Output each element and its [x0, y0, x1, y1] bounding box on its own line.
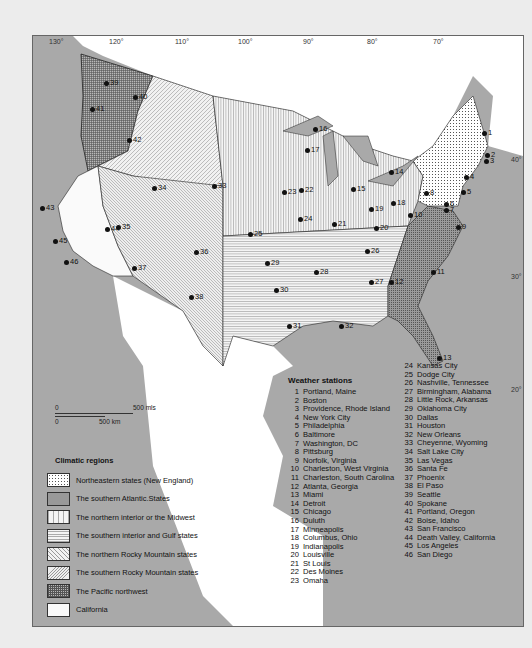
station-list-item: 38El Paso: [399, 482, 495, 491]
station-dot-icon: [482, 131, 487, 136]
station-marker: 1: [481, 129, 492, 137]
station-marker-number: 32: [345, 321, 353, 330]
legend-item-southern-atlantic: The southern Atlantic.States: [47, 490, 198, 509]
station-dot-icon: [298, 217, 303, 222]
station-dot-icon: [461, 190, 466, 195]
station-dot-icon: [133, 95, 138, 100]
station-marker-number: 21: [338, 219, 346, 228]
station-marker-number: 31: [293, 321, 301, 330]
station-dot-icon: [431, 270, 436, 275]
station-marker-number: 27: [375, 277, 383, 286]
station-marker: 23: [281, 188, 296, 196]
station-marker-number: 20: [380, 223, 388, 232]
station-marker: 38: [188, 293, 203, 301]
station-marker: 43: [39, 204, 54, 212]
map-frame: 130° 120° 110° 100° 90° 80° 70° 40° 30° …: [32, 35, 524, 627]
station-dot-icon: [305, 148, 310, 153]
station-marker-number: 4: [470, 172, 474, 181]
station-name: Omaha: [303, 576, 328, 585]
station-marker-number: 3: [490, 156, 494, 165]
station-marker: 11: [430, 268, 445, 276]
legend-swatch: [47, 603, 70, 617]
station-dot-icon: [248, 232, 253, 237]
station-list-item: 23Omaha: [285, 577, 394, 586]
latitude-label-30: 30°: [511, 273, 522, 280]
longitude-label-70: 70°: [433, 38, 444, 45]
longitude-label-90: 90°: [303, 38, 314, 45]
station-marker: 29: [264, 259, 279, 267]
station-marker-number: 9: [462, 222, 466, 231]
station-list-item: 14Detroit: [285, 500, 394, 509]
legend-item-northern-rockies: The northern Rocky Mountain states: [47, 545, 198, 564]
station-dot-icon: [464, 175, 469, 180]
station-list-item: 36Santa Fe: [399, 465, 495, 474]
station-marker: 16: [312, 125, 327, 133]
legend-swatch: [47, 510, 70, 524]
station-marker-number: 10: [414, 210, 422, 219]
legend-title: Climatic regions: [55, 456, 198, 465]
station-dot-icon: [389, 170, 394, 175]
station-marker: 33: [211, 182, 226, 190]
station-marker: 36: [193, 248, 208, 256]
longitude-label-130: 130°: [49, 38, 63, 45]
station-dot-icon: [282, 190, 287, 195]
station-marker: 8: [423, 189, 434, 197]
station-marker-number: 8: [430, 188, 434, 197]
station-marker-number: 26: [371, 246, 379, 255]
station-marker: 9: [455, 223, 466, 231]
station-dot-icon: [391, 201, 396, 206]
station-list-item: 19Indianapolis: [285, 543, 394, 552]
station-marker-number: 14: [395, 167, 403, 176]
station-marker: 19: [368, 205, 383, 213]
station-number: 46: [399, 551, 413, 560]
station-list-item: 15Chicago: [285, 508, 394, 517]
station-dot-icon: [194, 250, 199, 255]
station-marker: 4: [463, 173, 474, 181]
station-dot-icon: [339, 324, 344, 329]
station-list-item: 13Miami: [285, 491, 394, 500]
station-marker-number: 37: [138, 263, 146, 272]
longitude-label-100: 100°: [238, 38, 252, 45]
legend-swatch: [47, 547, 70, 561]
station-list-item: 46San Diego: [399, 551, 495, 560]
station-marker: 3: [483, 157, 494, 165]
legend-item-midwest: The northern interior or the Midwest: [47, 508, 198, 527]
station-marker: 27: [368, 278, 383, 286]
station-marker: 44: [104, 225, 119, 233]
station-marker-number: 18: [397, 198, 405, 207]
station-number: 23: [285, 577, 299, 586]
station-marker-number: 12: [395, 277, 403, 286]
station-dot-icon: [189, 295, 194, 300]
station-marker: 30: [273, 286, 288, 294]
station-dot-icon: [127, 138, 132, 143]
weather-stations-heading: Weather stations: [288, 376, 352, 385]
station-marker-number: 7: [450, 205, 454, 214]
station-dot-icon: [369, 207, 374, 212]
station-list-item: 29Oklahoma City: [399, 405, 495, 414]
station-list-item: 22Des Moines: [285, 568, 394, 577]
legend-item-southern-rockies: The southern Rocky Mountain states: [47, 564, 198, 583]
station-dot-icon: [408, 213, 413, 218]
station-marker: 15: [350, 185, 365, 193]
station-marker: 31: [286, 322, 301, 330]
station-dot-icon: [437, 356, 442, 361]
station-marker-number: 38: [195, 292, 203, 301]
station-list-item: 1Portland, Maine: [285, 388, 394, 397]
station-marker: 7: [443, 206, 454, 214]
station-dot-icon: [64, 260, 69, 265]
station-marker-number: 34: [158, 183, 166, 192]
station-dot-icon: [456, 225, 461, 230]
station-dot-icon: [444, 208, 449, 213]
station-dot-icon: [332, 222, 337, 227]
station-marker-number: 42: [133, 135, 141, 144]
legend-swatch: [47, 584, 70, 598]
station-dot-icon: [53, 239, 58, 244]
station-marker: 34: [151, 184, 166, 192]
station-marker: 10: [407, 211, 422, 219]
station-marker: 20: [373, 224, 388, 232]
station-marker: 37: [131, 264, 146, 272]
longitude-label-110: 110°: [175, 38, 189, 45]
stations-list-column-2: 24Kansas City25Dodge City26Nashville, Te…: [399, 362, 495, 560]
station-dot-icon: [287, 324, 292, 329]
legend-swatch: [47, 473, 70, 487]
